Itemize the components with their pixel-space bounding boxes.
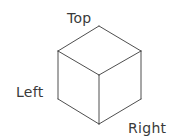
edge-upperright-front (99, 51, 141, 75)
edge-upperleft-front (58, 51, 99, 75)
cube-diagram: Top Left Right (0, 0, 177, 140)
label-right: Right (128, 120, 167, 136)
isometric-cube: Top Left Right (0, 0, 177, 140)
top-face (58, 26, 141, 75)
left-face (58, 51, 99, 124)
right-face (99, 51, 141, 124)
edge-lowerleft-bottom (58, 99, 99, 124)
label-top: Top (66, 10, 92, 26)
label-left: Left (16, 84, 44, 100)
edge-top-upperright (99, 26, 141, 51)
edge-top-upperleft (58, 26, 99, 51)
